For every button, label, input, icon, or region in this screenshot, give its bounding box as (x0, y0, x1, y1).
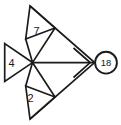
diagram-svg: 7 4 2 18 (0, 0, 121, 125)
puzzle-diagram: 7 4 2 18 (0, 0, 121, 125)
left-triangle-label: 4 (8, 57, 14, 69)
result-circle-label: 18 (101, 57, 112, 68)
bottom-triangle-label: 2 (27, 92, 33, 104)
top-triangle-label: 7 (33, 25, 39, 37)
